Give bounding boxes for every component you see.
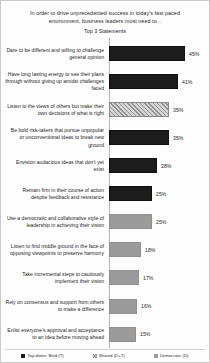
bar-value-label: 28% [157, 163, 171, 169]
bar-category-label: Have long lasting energy to see their pl… [5, 71, 109, 93]
bar-category-label: Listen to find middle ground in the face… [5, 243, 109, 257]
bar [109, 74, 178, 89]
bar-row: Envision audacious ideas that don't yet … [5, 152, 205, 180]
legend-item-shared[interactable]: Shared (D+T) [93, 353, 125, 358]
bar-category-label: Take incremental steps to cautiously imp… [5, 271, 109, 285]
bar-category-label: Dare to be different and willing to chal… [5, 47, 109, 61]
bar-category-label: Rely on consensus and support from other… [5, 299, 109, 313]
bar-track: 45% [109, 40, 205, 68]
bar-value-label: 25% [152, 191, 166, 197]
bar [109, 130, 169, 145]
legend-item-democratic[interactable]: Democratic (D) [154, 353, 189, 358]
bar-track: 35% [109, 96, 205, 124]
legend-label: Top-down: Bold (T) [27, 353, 63, 358]
bar [109, 158, 157, 173]
bar-category-label: Remain firm in their course of action de… [5, 187, 109, 201]
bar-value-label: 45% [185, 51, 199, 57]
bar-track: 18% [109, 236, 205, 264]
bar [109, 46, 185, 61]
bar-row: Remain firm in their course of action de… [5, 180, 205, 208]
bar-value-label: 41% [178, 79, 192, 85]
bar-row: Be bold risk-takers that pursue unpopula… [5, 124, 205, 152]
bar-category-label: Be bold risk-takers that pursue unpopula… [5, 127, 109, 149]
bar-track: 25% [109, 208, 205, 236]
chart-title: In order to drive unprecedented success … [5, 5, 205, 27]
legend-swatch-icon [154, 354, 158, 358]
bar-row: Listen to the views of others but make t… [5, 96, 205, 124]
bar-row: Use a democratic and collaborative style… [5, 208, 205, 236]
bar-row: Have long lasting energy to see their pl… [5, 68, 205, 96]
bar-category-label: Enlist everyone's approval and acceptanc… [5, 327, 109, 341]
bar-value-label: 17% [139, 275, 153, 281]
chart-subtitle: Top 3 Statements [5, 27, 205, 38]
bar-value-label: 35% [169, 107, 183, 113]
bar [109, 102, 169, 117]
bar-row: Rely on consensus and support from other… [5, 292, 205, 320]
bar [109, 299, 137, 314]
bar-track: 28% [109, 152, 205, 180]
bar-category-label: Use a democratic and collaborative style… [5, 215, 109, 229]
bar-value-label: 25% [152, 219, 166, 225]
bar-row: Dare to be different and willing to chal… [5, 40, 205, 68]
legend-swatch-icon [21, 354, 25, 358]
bar-value-label: 16% [137, 303, 151, 309]
bar-row: Take incremental steps to cautiously imp… [5, 264, 205, 292]
legend-swatch-icon [93, 354, 97, 358]
chart-container: In order to drive unprecedented success … [0, 0, 210, 363]
bar-row: Listen to find middle ground in the face… [5, 236, 205, 264]
bar-category-label: Envision audacious ideas that don't yet … [5, 159, 109, 173]
bar-category-label: Listen to the views of others but make t… [5, 103, 109, 117]
bar-track: 16% [109, 292, 205, 320]
bar [109, 214, 152, 229]
bar-row: Enlist everyone's approval and acceptanc… [5, 320, 205, 348]
plot-area: Dare to be different and willing to chal… [5, 38, 205, 348]
legend-label: Shared (D+T) [99, 353, 125, 358]
bar-track: 41% [109, 68, 205, 96]
bar-track: 25% [109, 180, 205, 208]
bar-track: 17% [109, 264, 205, 292]
bar [109, 186, 152, 201]
bar-track: 15% [109, 320, 205, 348]
bar [109, 270, 139, 285]
chart-legend: Top-down: Bold (T) Shared (D+T) Democrat… [5, 349, 205, 360]
bar-value-label: 35% [169, 135, 183, 141]
legend-item-topdown[interactable]: Top-down: Bold (T) [21, 353, 63, 358]
bar-value-label: 18% [141, 247, 155, 253]
bar-track: 35% [109, 124, 205, 152]
bar-value-label: 15% [136, 331, 150, 337]
bar [109, 242, 141, 257]
bar [109, 327, 136, 342]
legend-label: Democratic (D) [160, 353, 189, 358]
